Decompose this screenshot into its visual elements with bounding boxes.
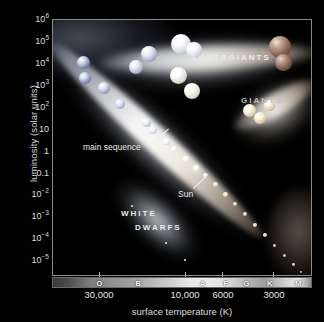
star-sphere: [253, 223, 257, 227]
spectral-class-G: G: [244, 279, 250, 288]
y-tick-1: 1: [44, 147, 49, 156]
giants-band: [211, 54, 311, 169]
star-sphere: [171, 146, 177, 152]
y-tick-10: 10: [39, 125, 49, 134]
star-point: [131, 205, 133, 207]
main-sequence-leader-line: [150, 129, 169, 145]
star-point: [184, 259, 186, 261]
y-tick-0.1: 0.1: [36, 169, 49, 178]
spectral-class-F: F: [224, 279, 229, 288]
y-tick-1e6: 106: [35, 15, 49, 24]
star-sphere: [292, 263, 295, 266]
star-sphere-supergiant: [171, 34, 191, 54]
star-point: [165, 242, 167, 244]
star-sphere: [273, 244, 276, 247]
star-sphere: [183, 156, 189, 162]
spectral-class-A: A: [200, 279, 205, 288]
x-tick-10000: 10,000: [170, 289, 199, 300]
white-label: WHITE: [121, 209, 157, 218]
star-sphere: [142, 118, 151, 127]
main-sequence-label: main sequence: [83, 142, 141, 152]
star-sphere: [77, 56, 90, 69]
star-sphere: [149, 126, 157, 134]
y-tick-1e5: 105: [35, 37, 49, 46]
spectral-class-bar: O B A F G K M: [52, 277, 312, 288]
giants-band-core: [230, 72, 311, 137]
star-sphere: [98, 82, 110, 94]
hr-diagram-figure: luminosity (solar units) 106 105 104 103…: [0, 0, 324, 322]
sun-label: Sun: [178, 189, 193, 199]
plot-area: SUPERGIANTS GIANTS main sequence Sun WHI…: [52, 19, 312, 276]
y-tick-1e-5: 10−5: [32, 256, 49, 265]
y-axis-ticks: 106 105 104 103 102 10 1 0.1 10−2 10−3 1…: [0, 0, 49, 322]
x-axis-label: surface temperature (K): [52, 306, 312, 317]
star-sphere-supergiant: [141, 46, 157, 62]
star-sphere: [283, 254, 286, 257]
cool-dwarfs-tail: [267, 188, 311, 275]
hot-stars-haze: [53, 20, 177, 82]
x-tick-30000: 30,000: [84, 289, 113, 300]
star-sphere-supergiant: [184, 83, 200, 99]
star-sphere: [300, 271, 302, 273]
star-sphere: [243, 212, 247, 216]
star-sphere: [223, 192, 228, 197]
spectral-class-B: B: [135, 279, 140, 288]
main-sequence-core: [53, 31, 272, 247]
spectral-class-O: O: [97, 279, 103, 288]
star-sphere-supergiant: [129, 60, 143, 74]
y-tick-1e3: 103: [35, 81, 49, 90]
y-tick-1e4: 104: [35, 59, 49, 68]
star-sphere: [163, 138, 170, 145]
spectral-class-M: M: [295, 279, 301, 288]
star-sphere-supergiant-red: [275, 54, 292, 71]
sun-leader-line: [193, 177, 206, 189]
star-sphere: [213, 182, 218, 187]
y-tick-1e2: 102: [35, 103, 49, 112]
star-sphere: [263, 233, 267, 237]
star-sphere-giant: [254, 112, 266, 124]
y-tick-1e-3: 10−3: [32, 212, 49, 221]
giants-label: GIANTS: [241, 96, 283, 105]
star-sphere: [233, 202, 237, 206]
supergiants-label: SUPERGIANTS: [191, 53, 271, 62]
y-tick-1e-2: 10−2: [32, 190, 49, 199]
star-sphere: [79, 72, 91, 84]
star-sphere-giant: [243, 104, 256, 117]
sun-star-marker: [193, 165, 199, 171]
white-dwarfs-cloud: [72, 135, 242, 275]
star-sphere-supergiant-red: [269, 36, 291, 58]
spectral-class-K: K: [267, 279, 272, 288]
y-tick-1e-4: 10−4: [32, 234, 49, 243]
star-sphere-supergiant: [170, 67, 187, 84]
x-tick-3000: 3000: [263, 289, 284, 300]
x-tick-6000: 6000: [212, 289, 233, 300]
star-sphere: [115, 99, 125, 109]
dwarfs-label: DWARFS: [135, 223, 182, 232]
